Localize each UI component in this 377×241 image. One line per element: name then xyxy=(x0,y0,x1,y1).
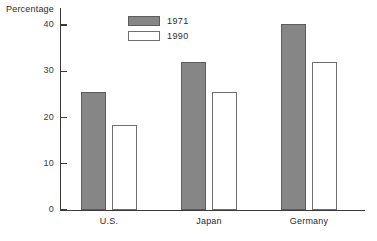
y-tick-label-20: 20 xyxy=(2,112,54,122)
y-tick-40 xyxy=(61,24,67,25)
x-label-japan: Japan xyxy=(181,216,237,226)
legend-swatch-1990 xyxy=(128,31,160,41)
y-axis-line xyxy=(60,8,61,211)
y-tick-10 xyxy=(61,163,67,164)
bar-japan-1971 xyxy=(181,62,206,210)
y-tick-20 xyxy=(61,117,67,118)
bar-germany-1971 xyxy=(281,24,306,210)
y-tick-label-30: 30 xyxy=(2,65,54,75)
y-tick-label-40: 40 xyxy=(2,19,54,29)
bar-us-1971 xyxy=(81,92,106,210)
legend-item-1990: 1990 xyxy=(128,29,189,42)
x-axis-line xyxy=(60,210,365,211)
y-tick-30 xyxy=(61,71,67,72)
bar-chart: Percentage 010203040 U.S.JapanGermany 19… xyxy=(0,0,377,241)
legend: 1971 1990 xyxy=(128,14,189,44)
y-tick-label-10: 10 xyxy=(2,158,54,168)
legend-label-1990: 1990 xyxy=(167,31,189,41)
y-tick-label-0: 0 xyxy=(2,204,54,214)
bar-japan-1990 xyxy=(212,92,237,210)
legend-item-1971: 1971 xyxy=(128,14,189,27)
y-tick-0 xyxy=(61,209,67,210)
legend-swatch-1971 xyxy=(128,16,160,26)
bar-germany-1990 xyxy=(312,62,337,210)
x-label-us: U.S. xyxy=(81,216,137,226)
legend-label-1971: 1971 xyxy=(167,16,189,26)
x-label-germany: Germany xyxy=(281,216,337,226)
bar-us-1990 xyxy=(112,125,137,210)
